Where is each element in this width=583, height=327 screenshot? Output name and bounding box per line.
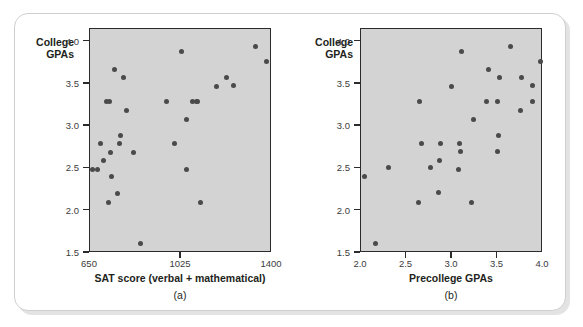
data-point bbox=[419, 141, 424, 146]
data-point bbox=[438, 141, 443, 146]
x-axis-tick-label: 650 bbox=[81, 258, 97, 269]
data-point bbox=[530, 99, 535, 104]
data-point bbox=[484, 99, 489, 104]
y-axis-tick-label: 1.5 bbox=[51, 247, 79, 258]
data-point bbox=[253, 44, 258, 49]
data-point bbox=[469, 200, 474, 205]
y-axis-tick-label: 3.0 bbox=[51, 120, 79, 131]
data-point bbox=[112, 67, 117, 72]
panel-b-plot-area bbox=[360, 28, 542, 252]
data-point bbox=[124, 108, 129, 113]
panel-a-plot-area bbox=[89, 28, 271, 252]
data-point bbox=[530, 83, 535, 88]
data-point bbox=[508, 44, 513, 49]
y-axis-tick-label: 3.0 bbox=[322, 120, 350, 131]
y-axis-tick-label: 2.0 bbox=[51, 204, 79, 215]
y-axis-tick-label: 4.0 bbox=[322, 35, 350, 46]
y-axis-tick bbox=[83, 82, 89, 84]
data-point bbox=[131, 150, 136, 155]
data-point bbox=[115, 191, 120, 196]
data-point bbox=[184, 167, 189, 172]
data-point bbox=[436, 190, 441, 195]
data-point bbox=[449, 84, 454, 89]
data-point bbox=[118, 133, 123, 138]
x-axis-tick-label: 4.0 bbox=[535, 258, 548, 269]
y-axis-tick bbox=[354, 124, 360, 126]
data-point bbox=[184, 117, 189, 122]
y-axis-tick bbox=[354, 251, 360, 253]
data-point bbox=[121, 75, 126, 80]
data-point bbox=[108, 150, 113, 155]
x-axis-tick-label: 2.5 bbox=[399, 258, 412, 269]
data-point bbox=[518, 108, 523, 113]
data-point bbox=[456, 167, 461, 172]
y-axis-tick-label: 3.5 bbox=[322, 77, 350, 88]
data-point bbox=[107, 99, 112, 104]
y-axis-tick bbox=[83, 40, 89, 42]
data-point bbox=[198, 200, 203, 205]
data-point bbox=[495, 149, 500, 154]
y-axis-tick bbox=[83, 251, 89, 253]
data-point bbox=[437, 158, 442, 163]
y-axis-tick-label: 2.0 bbox=[322, 204, 350, 215]
data-point bbox=[138, 241, 143, 246]
data-point bbox=[95, 167, 100, 172]
panel-a-caption: (a) bbox=[174, 289, 187, 301]
data-point bbox=[224, 75, 229, 80]
data-point bbox=[101, 158, 106, 163]
data-point bbox=[264, 59, 269, 64]
data-point bbox=[195, 99, 200, 104]
y-axis-tick-label: 3.5 bbox=[51, 77, 79, 88]
data-point bbox=[457, 141, 462, 146]
y-axis-tick-label: 1.5 bbox=[322, 247, 350, 258]
x-axis-tick-label: 2.0 bbox=[353, 258, 366, 269]
data-point bbox=[459, 49, 464, 54]
data-point bbox=[98, 141, 103, 146]
data-point bbox=[471, 117, 476, 122]
data-point bbox=[106, 200, 111, 205]
data-point bbox=[458, 149, 463, 154]
data-point bbox=[214, 84, 219, 89]
x-axis-tick-label: 1025 bbox=[169, 258, 190, 269]
data-point bbox=[486, 67, 491, 72]
data-point bbox=[164, 99, 169, 104]
y-axis-tick bbox=[354, 82, 360, 84]
x-axis-tick-label: 3.0 bbox=[444, 258, 457, 269]
y-axis-tick-label: 2.5 bbox=[51, 162, 79, 173]
x-axis-tick-label: 3.5 bbox=[490, 258, 503, 269]
panel-a: College GPAs SAT score (verbal + mathema… bbox=[0, 0, 291, 327]
y-axis-tick-label: 2.5 bbox=[322, 162, 350, 173]
data-point bbox=[428, 165, 433, 170]
x-axis-tick-label: 1400 bbox=[260, 258, 281, 269]
data-point bbox=[362, 174, 367, 179]
data-point bbox=[373, 241, 378, 246]
y-axis-tick bbox=[83, 209, 89, 211]
y-axis-tick bbox=[83, 124, 89, 126]
y-axis-tick bbox=[83, 167, 89, 169]
data-point bbox=[538, 59, 543, 64]
data-point bbox=[495, 99, 500, 104]
data-point bbox=[231, 83, 236, 88]
data-point bbox=[416, 200, 421, 205]
data-point bbox=[386, 165, 391, 170]
data-point bbox=[497, 75, 502, 80]
data-point bbox=[117, 141, 122, 146]
panel-a-x-axis-title: SAT score (verbal + mathematical) bbox=[94, 272, 265, 284]
y-axis-tick bbox=[354, 167, 360, 169]
data-point bbox=[109, 174, 114, 179]
y-axis-tick bbox=[354, 40, 360, 42]
y-axis-tick-label: 4.0 bbox=[51, 35, 79, 46]
data-point bbox=[172, 141, 177, 146]
data-point bbox=[179, 49, 184, 54]
data-point bbox=[519, 75, 524, 80]
panel-b-caption: (b) bbox=[445, 289, 458, 301]
panel-b: College GPAs Precollege GPAs (b) 1.52.02… bbox=[291, 0, 583, 327]
y-axis-tick bbox=[354, 209, 360, 211]
panel-b-x-axis-title: Precollege GPAs bbox=[409, 272, 493, 284]
data-point bbox=[417, 99, 422, 104]
figure-root: College GPAs SAT score (verbal + mathema… bbox=[0, 0, 583, 327]
data-point bbox=[496, 133, 501, 138]
